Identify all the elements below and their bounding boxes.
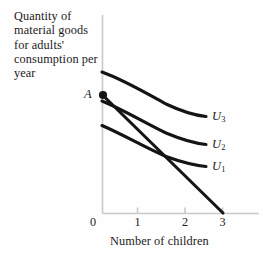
point-a-label: A <box>84 87 92 102</box>
indifference-curve-figure: Quantity of material goods for adults' c… <box>0 0 269 258</box>
curve-label-u1-text: U <box>212 159 221 173</box>
x-tick-label-0: 0 <box>85 215 101 230</box>
curve-label-u3-text: U <box>212 109 221 123</box>
budget-line <box>103 96 223 214</box>
curve-label-u2: U2 <box>212 137 225 152</box>
curve-u2 <box>102 101 206 145</box>
curve-label-u2-text: U <box>212 137 221 151</box>
x-tick-label-3: 3 <box>215 215 231 230</box>
curve-label-u3: U3 <box>212 109 225 124</box>
curve-label-u1: U1 <box>212 159 225 174</box>
curve-label-u1-subscript: 1 <box>221 165 225 174</box>
x-tick-label-2: 2 <box>177 215 193 230</box>
x-axis-title: Number of children <box>110 234 250 249</box>
point-a-marker <box>99 91 107 99</box>
x-tick-label-1: 1 <box>130 215 146 230</box>
curve-label-u2-subscript: 2 <box>221 143 225 152</box>
curve-label-u3-subscript: 3 <box>221 115 225 124</box>
